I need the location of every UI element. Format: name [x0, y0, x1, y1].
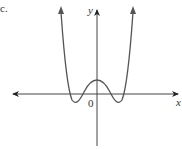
graph: [0, 0, 182, 149]
x-axis-label: x: [176, 96, 181, 108]
y-axis-label: y: [88, 4, 93, 16]
origin-label: 0: [88, 97, 94, 109]
